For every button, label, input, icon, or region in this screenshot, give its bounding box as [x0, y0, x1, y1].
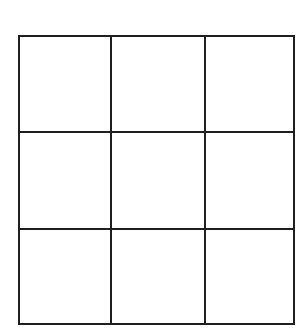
cell-r2-c1[interactable]	[20, 133, 110, 228]
cell-r1-c2[interactable]	[112, 37, 204, 131]
cell-r2-c2[interactable]	[112, 133, 204, 228]
cell-r3-c1[interactable]	[20, 230, 110, 323]
cell-r3-c2[interactable]	[112, 230, 204, 323]
cell-r2-c3[interactable]	[206, 133, 293, 228]
game-board	[18, 35, 295, 325]
cell-r3-c3[interactable]	[206, 230, 293, 323]
cell-r1-c1[interactable]	[20, 37, 110, 131]
grid-line-horizontal-bottom	[18, 323, 295, 325]
cell-r1-c3[interactable]	[206, 37, 293, 131]
grid-line-vertical-right	[293, 35, 295, 325]
